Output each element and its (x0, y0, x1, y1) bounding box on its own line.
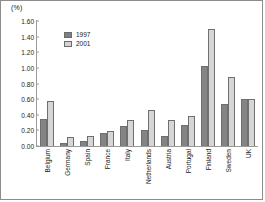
bar-sweden-2001 (228, 77, 235, 146)
x-axis-label-cell: Sweden (218, 148, 238, 200)
bar-group (198, 21, 218, 146)
bar-group (117, 21, 137, 146)
bar-france-2001 (107, 131, 114, 146)
x-axis-category-labels: BelgiumGermanySpainFranceItalyNetherland… (37, 148, 258, 200)
x-axis-label-cell: Belgium (37, 148, 57, 200)
x-axis-label-cell: Germany (57, 148, 77, 200)
bar-italy-2001 (127, 120, 134, 146)
y-axis-tick-label: 0.80 (21, 80, 34, 87)
y-axis-tick-label: 1.00 (21, 64, 34, 71)
x-axis-label-cell: Austria (158, 148, 178, 200)
x-axis-label-cell: Spain (77, 148, 97, 200)
x-axis-label-austria: Austria (164, 149, 171, 169)
y-axis-tick-label: 1.40 (21, 33, 34, 40)
y-axis-tick-mark (36, 67, 39, 68)
y-axis-tick-mark (36, 21, 39, 22)
y-axis-tick-label: 0.20 (21, 127, 34, 134)
y-axis-tick-labels: 0.000.200.400.600.801.001.201.401.60 (1, 1, 34, 202)
y-axis-tick-mark (36, 99, 39, 100)
x-axis-label-italy: Italy (124, 149, 131, 161)
bar-germany-1997 (60, 143, 67, 146)
bar-finland-1997 (201, 66, 208, 146)
x-axis-label-belgium: Belgium (44, 149, 51, 172)
bar-portugal-1997 (181, 125, 188, 146)
bar-portugal-2001 (188, 116, 195, 146)
bar-netherlands-2001 (148, 110, 155, 146)
x-axis-label-portugal: Portugal (184, 149, 191, 173)
chart-container: (%) 0.000.200.400.600.801.001.201.401.60… (0, 0, 263, 200)
bar-austria-1997 (161, 136, 168, 146)
bar-spain-1997 (80, 141, 87, 146)
bar-uk-1997 (241, 99, 248, 146)
y-axis-tick-mark (36, 114, 39, 115)
bar-group (137, 21, 157, 146)
bar-belgium-2001 (47, 101, 54, 146)
y-axis-tick-mark (36, 146, 39, 147)
x-axis-label-finland: Finland (204, 149, 211, 170)
y-axis-tick-label: 0.00 (21, 143, 34, 150)
x-axis-label-spain: Spain (84, 149, 91, 166)
x-axis-label-france: France (104, 149, 111, 169)
x-axis-label-germany: Germany (64, 149, 71, 176)
x-axis-label-cell: Italy (117, 148, 137, 200)
bar-uk-2001 (248, 99, 255, 146)
bar-germany-2001 (67, 137, 74, 146)
bar-finland-2001 (208, 29, 215, 146)
bar-sweden-1997 (221, 104, 228, 146)
bar-austria-2001 (168, 120, 175, 146)
bar-group (238, 21, 258, 146)
bar-groups (37, 21, 258, 146)
y-axis-tick-mark (36, 36, 39, 37)
bar-spain-2001 (87, 136, 94, 146)
bar-netherlands-1997 (141, 130, 148, 146)
x-axis-label-uk: UK (244, 149, 251, 158)
y-axis-tick-mark (36, 83, 39, 84)
bar-group (178, 21, 198, 146)
x-axis-label-netherlands: Netherlands (144, 149, 151, 184)
bar-group (37, 21, 57, 146)
bar-italy-1997 (120, 126, 127, 146)
y-axis-tick-label: 1.60 (21, 18, 34, 25)
bar-group (97, 21, 117, 146)
y-axis-tick-label: 0.40 (21, 111, 34, 118)
bar-group (77, 21, 97, 146)
bar-group (218, 21, 238, 146)
y-axis-tick-label: 1.20 (21, 49, 34, 56)
x-axis-label-cell: Netherlands (137, 148, 157, 200)
y-axis-tick-label: 0.60 (21, 96, 34, 103)
x-axis-label-cell: Portugal (178, 148, 198, 200)
x-axis-label-cell: France (97, 148, 117, 200)
bar-group (57, 21, 77, 146)
x-axis-line (36, 146, 258, 147)
bar-france-1997 (100, 133, 107, 146)
bar-belgium-1997 (40, 119, 47, 146)
x-axis-label-sweden: Sweden (224, 149, 231, 173)
bar-group (158, 21, 178, 146)
x-axis-label-cell: Finland (198, 148, 218, 200)
y-axis-tick-mark (36, 52, 39, 53)
y-axis-tick-mark (36, 130, 39, 131)
x-axis-label-cell: UK (238, 148, 258, 200)
